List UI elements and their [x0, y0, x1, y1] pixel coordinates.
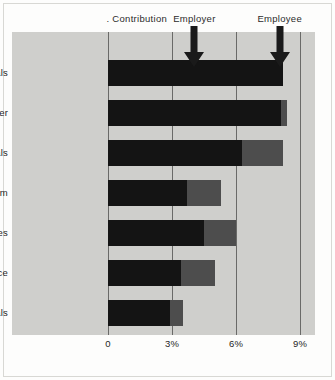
category-label: Insurance [0, 260, 8, 286]
bar-segment-employee [187, 180, 221, 206]
x-axis-tick-labels: 03%6%9% [0, 338, 335, 358]
category-label: Public utilities [0, 220, 8, 246]
x-tick-label: 9% [293, 338, 307, 349]
bar-row [12, 140, 315, 166]
bar-segment-employer [108, 260, 181, 286]
bar-segment-employer [108, 180, 187, 206]
bar-segment-employee [281, 100, 287, 126]
down-arrow-icon [183, 26, 205, 68]
annotation-label: Employer [173, 13, 216, 24]
x-tick-label: 6% [229, 338, 243, 349]
x-tick-label: 3% [165, 338, 179, 349]
bar-segment-employer [108, 300, 170, 326]
bar-row [12, 300, 315, 326]
bar-segment-employee [242, 140, 283, 166]
category-label: Fabricated metals [0, 140, 8, 166]
bar-segment-employee [170, 300, 183, 326]
bar-segment-employer [108, 140, 242, 166]
plot-area: Primary metalsRubberFabricated metalsPet… [12, 32, 315, 335]
bar-row [12, 260, 315, 286]
bar-segment-employer [108, 220, 204, 246]
bar-segment-employer [108, 100, 281, 126]
bar-row [12, 220, 315, 246]
annotation-label: Employee [257, 13, 302, 24]
chart-figure: . ContributionEmployerEmployee Primary m… [0, 0, 335, 380]
category-label: Primary metals [0, 60, 8, 86]
annotation-label: . Contribution [106, 13, 167, 24]
bar-row [12, 180, 315, 206]
category-label: Hospitals [0, 300, 8, 326]
bar-segment-employee [181, 260, 215, 286]
down-arrow-icon [269, 26, 291, 68]
bar-row [12, 100, 315, 126]
category-label: Rubber [0, 100, 8, 126]
bar-segment-employee [204, 220, 236, 246]
category-label: Petroleum [0, 180, 8, 206]
x-tick-label: 0 [105, 338, 110, 349]
